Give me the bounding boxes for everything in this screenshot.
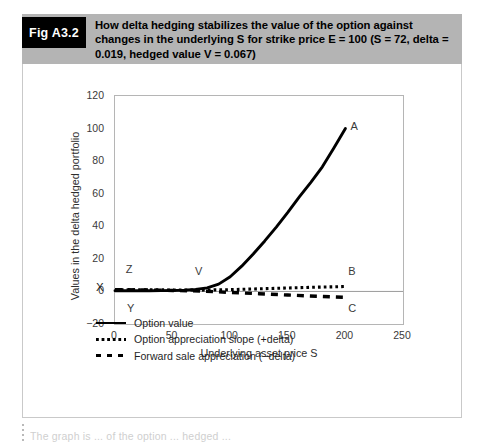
figure-screenshot: Fig A3.2 How delta hedging stabilizes th…	[0, 0, 484, 444]
plot-point-label: A	[350, 120, 357, 132]
y-axis-title: Values in the delta hedged portfolio	[69, 101, 81, 331]
x-origin-label: X	[96, 281, 104, 293]
legend-item-option-appreciation-slope: Option appreciation slope (+delta)	[96, 333, 396, 347]
legend-label-option-appreciation-slope: Option appreciation slope (+delta)	[134, 333, 293, 345]
page-bleed-text: The graph is ... of the option ... hedge…	[30, 430, 460, 444]
page-margin-dots	[22, 424, 24, 442]
legend-item-forward-sale-appreciation: Forward sale appreciation (−delta)	[96, 349, 396, 363]
plot-point-label: Y	[127, 302, 134, 314]
plot-point-label: C	[348, 302, 356, 314]
y-tick-label: 20	[70, 252, 104, 264]
y-tick-label: 100	[70, 122, 104, 134]
figure-number-badge: Fig A3.2	[22, 17, 86, 48]
plot-point-label: V	[195, 265, 202, 277]
y-tick-label: 60	[70, 187, 104, 199]
y-tick-label: 40	[70, 219, 104, 231]
y-tick-label: 80	[70, 154, 104, 166]
chart-svg	[115, 96, 403, 324]
plot-area: AZVBYC	[114, 95, 404, 325]
solid-line-key	[96, 317, 126, 329]
y-tick-label: 120	[70, 89, 104, 101]
series-option-value	[115, 129, 345, 291]
legend-item-option-value: Option value	[96, 316, 396, 330]
chart-legend: Option value Option appreciation slope (…	[96, 316, 396, 366]
plot-point-label: Z	[126, 263, 133, 275]
dashed-line-key	[96, 350, 126, 362]
legend-label-forward-sale-appreciation: Forward sale appreciation (−delta)	[134, 350, 295, 362]
legend-label-option-value: Option value	[134, 317, 193, 329]
plot-point-label: B	[348, 265, 355, 277]
dotted-line-key	[96, 333, 126, 345]
